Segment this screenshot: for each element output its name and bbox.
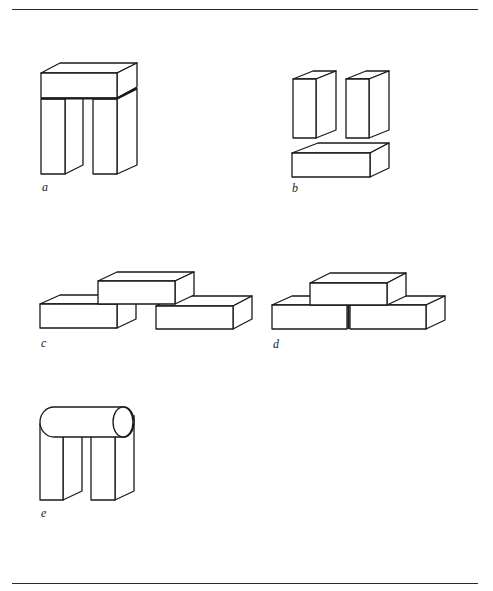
panel-label-a: a: [42, 180, 48, 195]
lintel-block: [41, 63, 137, 99]
cylinder: [40, 407, 134, 437]
panel-label-d: d: [273, 337, 279, 352]
top-block: [98, 272, 194, 304]
left-pillar: [41, 91, 83, 174]
panel-label-c: c: [41, 336, 46, 351]
top-block: [310, 273, 406, 305]
panel-label-e: e: [41, 506, 46, 521]
panel-e-cylinder: [40, 407, 134, 500]
block-diagram: [0, 0, 493, 591]
lying-block: [292, 143, 389, 177]
panel-d-stack: [272, 273, 445, 329]
panel-c-bridge: [40, 272, 252, 329]
bottom-rule: [12, 583, 478, 584]
left-pillar: [293, 71, 336, 138]
panel-b-separate: [292, 71, 389, 177]
panel-a-arch: [41, 63, 137, 174]
right-pillar: [346, 71, 389, 138]
panel-label-b: b: [292, 181, 298, 196]
right-pillar: [93, 89, 137, 174]
